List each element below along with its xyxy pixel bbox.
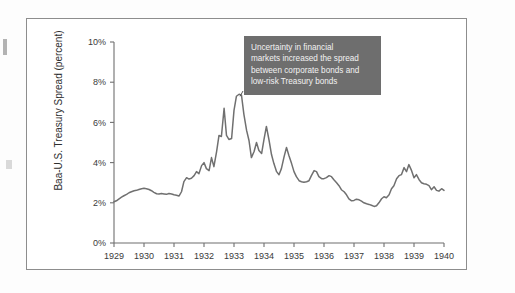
annotation-callout: Uncertainty in financial markets increas… (244, 36, 381, 95)
figure-frame: Baa-U.S. Treasury Spread (percent) 0%2%4… (26, 18, 467, 270)
page-background: Baa-U.S. Treasury Spread (percent) 0%2%4… (0, 0, 515, 293)
x-tick-label: 1939 (404, 251, 424, 261)
annotation-line-4: low-risk Treasury bonds (251, 76, 374, 87)
annotation-line-1: Uncertainty in financial (251, 42, 374, 53)
y-tick-label: 10% (88, 37, 106, 47)
y-tick-label: 8% (93, 77, 106, 87)
x-tick-label: 1930 (134, 251, 154, 261)
x-tick-label: 1931 (164, 251, 184, 261)
y-tick-label: 4% (93, 158, 106, 168)
scan-artifact-left-middle (6, 160, 12, 169)
x-tick-label: 1929 (104, 251, 124, 261)
x-tick-label: 1932 (194, 251, 214, 261)
x-tick-label: 1937 (344, 251, 364, 261)
annotation-line-3: between corporate bonds and (251, 65, 374, 76)
x-tick-label: 1935 (284, 251, 304, 261)
y-tick-label: 2% (93, 198, 106, 208)
scan-artifact-left-top (3, 39, 7, 55)
x-tick-label: 1940 (434, 251, 454, 261)
y-axis-ticks: 0%2%4%6%8%10% (88, 37, 114, 248)
x-tick-label: 1936 (314, 251, 334, 261)
x-tick-label: 1933 (224, 251, 244, 261)
x-axis-ticks: 1929193019311932193319341935193619371938… (104, 243, 454, 261)
x-tick-label: 1938 (374, 251, 394, 261)
y-tick-label: 0% (93, 238, 106, 248)
spread-series-line (114, 94, 444, 206)
x-tick-label: 1934 (254, 251, 274, 261)
y-tick-label: 6% (93, 118, 106, 128)
annotation-line-2: markets increased the spread (251, 53, 374, 64)
